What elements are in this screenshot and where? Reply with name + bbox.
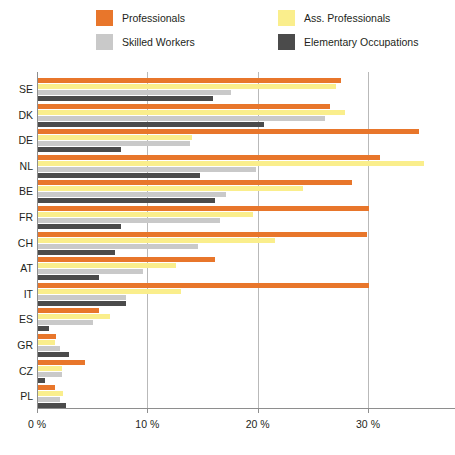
x-tick-label: 0 % xyxy=(28,418,46,430)
bar xyxy=(38,116,325,121)
bar xyxy=(38,104,330,109)
bar-group xyxy=(38,334,428,357)
bar xyxy=(38,295,126,300)
legend-label: Skilled Workers xyxy=(122,36,195,48)
bar-group xyxy=(38,180,428,203)
bar xyxy=(38,250,115,255)
y-axis-label: CH xyxy=(18,238,33,249)
bar xyxy=(38,110,345,115)
x-tick-label: 10 % xyxy=(135,418,159,430)
bar xyxy=(38,212,253,217)
y-axis-label: NL xyxy=(20,161,33,172)
bar xyxy=(38,257,215,262)
bar-group xyxy=(38,78,428,101)
bar xyxy=(38,244,198,249)
legend-label: Elementary Occupations xyxy=(304,36,418,48)
bar xyxy=(38,135,192,140)
bar-group xyxy=(38,104,428,127)
bar-group xyxy=(38,283,428,306)
bar-group xyxy=(38,232,428,255)
chart-legend: ProfessionalsAss. ProfessionalsSkilled W… xyxy=(96,10,416,58)
bar xyxy=(38,155,380,160)
bar xyxy=(38,238,275,243)
bar xyxy=(38,78,341,83)
bar xyxy=(38,372,62,377)
bar xyxy=(38,352,69,357)
bar-group xyxy=(38,360,428,383)
legend-item[interactable]: Ass. Professionals xyxy=(278,10,390,26)
legend-swatch-icon xyxy=(96,10,113,26)
legend-swatch-icon xyxy=(96,34,113,50)
bar xyxy=(38,192,226,197)
x-tick-label: 30 % xyxy=(356,418,380,430)
bar xyxy=(38,206,369,211)
bar xyxy=(38,269,143,274)
y-axis-label: SE xyxy=(19,84,33,95)
bar-group xyxy=(38,155,428,178)
plot-area: 0 %10 %20 %30 %SEDKDENLBEFRCHATITESGRCZP… xyxy=(37,72,427,408)
legend-label: Professionals xyxy=(122,12,185,24)
bar xyxy=(38,308,99,313)
bar-group xyxy=(38,206,428,229)
bar xyxy=(38,218,220,223)
bar xyxy=(38,378,45,383)
bar-group xyxy=(38,257,428,280)
bar xyxy=(38,141,190,146)
legend-swatch-icon xyxy=(278,34,295,50)
y-axis-label: IT xyxy=(24,289,33,300)
bar xyxy=(38,366,62,371)
x-tick-label: 20 % xyxy=(246,418,270,430)
bar xyxy=(38,360,85,365)
bar xyxy=(38,198,215,203)
bar xyxy=(38,186,303,191)
plot-inner xyxy=(37,72,427,408)
bar xyxy=(38,90,231,95)
bar xyxy=(38,314,110,319)
bar-group xyxy=(38,129,428,152)
y-axis-label: DE xyxy=(18,135,33,146)
bar xyxy=(38,180,352,185)
bar xyxy=(38,122,264,127)
bar xyxy=(38,326,49,331)
y-axis-label: FR xyxy=(19,212,33,223)
bar xyxy=(38,224,121,229)
y-axis-label: GR xyxy=(17,340,33,351)
bar xyxy=(38,334,56,339)
legend-item[interactable]: Elementary Occupations xyxy=(278,34,418,50)
bar xyxy=(38,320,93,325)
bar xyxy=(38,161,424,166)
bar xyxy=(38,232,367,237)
bar xyxy=(38,385,55,390)
bar xyxy=(38,173,200,178)
legend-label: Ass. Professionals xyxy=(304,12,390,24)
bar xyxy=(38,397,60,402)
bar xyxy=(38,301,126,306)
bar xyxy=(38,84,336,89)
bar-group xyxy=(38,308,428,331)
bar xyxy=(38,129,419,134)
legend-item[interactable]: Skilled Workers xyxy=(96,34,195,50)
bar xyxy=(38,275,99,280)
bar xyxy=(38,147,121,152)
bar xyxy=(38,340,55,345)
bar xyxy=(38,283,369,288)
y-axis-label: ES xyxy=(19,314,33,325)
bar xyxy=(38,167,256,172)
y-axis-label: BE xyxy=(19,186,33,197)
y-axis-label: PL xyxy=(20,391,33,402)
bar xyxy=(38,263,176,268)
y-axis-label: DK xyxy=(18,110,33,121)
bar xyxy=(38,96,213,101)
legend-item[interactable]: Professionals xyxy=(96,10,185,26)
y-axis-label: CZ xyxy=(19,366,33,377)
y-axis-label: AT xyxy=(20,263,33,274)
bar xyxy=(38,289,181,294)
bar xyxy=(38,346,60,351)
x-axis-line xyxy=(37,408,455,409)
legend-swatch-icon xyxy=(278,10,295,26)
bar-group xyxy=(38,385,428,408)
bar xyxy=(38,391,63,396)
